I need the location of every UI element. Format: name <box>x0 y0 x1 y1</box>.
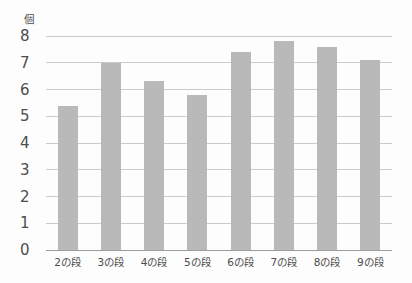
bar <box>317 47 337 250</box>
y-tick-label: 0 <box>20 243 30 258</box>
bar-column: 8の段 <box>306 36 349 250</box>
x-tick-label: 2の段 <box>54 257 81 268</box>
y-tick-label: 6 <box>20 82 30 97</box>
x-tick-label: 8の段 <box>314 257 341 268</box>
bar-column: 5の段 <box>176 36 219 250</box>
bar <box>144 81 164 250</box>
y-tick-label: 3 <box>20 162 30 177</box>
bars-layer: 2の段3の段4の段5の段6の段7の段8の段9の段 <box>46 36 392 250</box>
x-tick-label: 6の段 <box>227 257 254 268</box>
y-axis: 012345678 <box>20 36 40 250</box>
bar-column: 6の段 <box>219 36 262 250</box>
y-tick-label: 8 <box>20 29 30 44</box>
bar-column: 2の段 <box>46 36 89 250</box>
bar <box>274 41 294 250</box>
y-tick-label: 2 <box>20 189 30 204</box>
bar <box>101 63 121 250</box>
bar <box>231 52 251 250</box>
y-axis-unit-label: 個 <box>24 14 34 25</box>
bar-chart: 個 012345678 2の段3の段4の段5の段6の段7の段8の段9の段 <box>0 0 412 283</box>
x-tick-label: 3の段 <box>98 257 125 268</box>
bar <box>58 106 78 250</box>
bar-column: 3の段 <box>89 36 132 250</box>
y-tick-label: 5 <box>20 109 30 124</box>
y-tick-label: 1 <box>20 216 30 231</box>
x-tick-label: 4の段 <box>141 257 168 268</box>
y-tick-label: 4 <box>20 136 30 151</box>
x-tick-label: 9の段 <box>357 257 384 268</box>
bar-column: 7の段 <box>262 36 305 250</box>
bar-column: 9の段 <box>349 36 392 250</box>
x-tick-label: 7の段 <box>271 257 298 268</box>
y-tick-label: 7 <box>20 55 30 70</box>
bar <box>187 95 207 250</box>
x-tick-label: 5の段 <box>184 257 211 268</box>
bar <box>360 60 380 250</box>
bar-column: 4の段 <box>133 36 176 250</box>
plot-area: 2の段3の段4の段5の段6の段7の段8の段9の段 <box>46 36 392 250</box>
